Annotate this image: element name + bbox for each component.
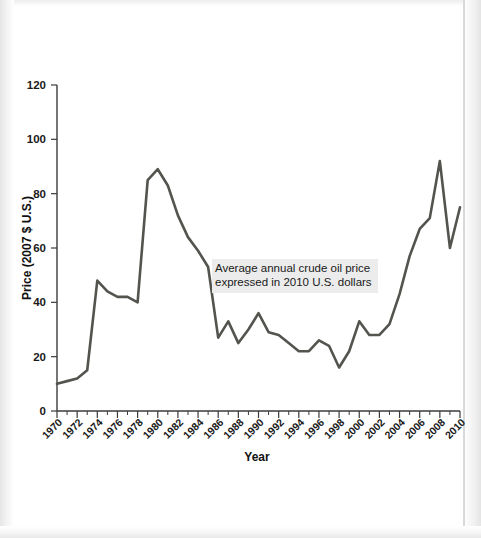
x-tick-label: 1972 [60,416,85,441]
x-tick-label: 1982 [160,416,185,441]
x-tick-label: 1970 [39,416,64,441]
x-tick-label: 1990 [241,416,266,441]
y-tick-label: 120 [27,79,46,91]
x-tick-label: 1994 [281,416,306,441]
y-tick-label: 20 [33,351,46,363]
x-tick-label: 2008 [422,416,447,441]
x-tick-label: 2000 [342,416,367,441]
x-tick-label: 2006 [402,416,427,441]
x-tick-label: 1980 [140,416,165,441]
chart-annotation: Average annual crude oil price expressed… [212,259,378,293]
annotation-line-2: expressed in 2010 U.S. dollars [215,276,372,288]
y-axis-title: Price (2007 $ U.S.) [20,196,34,300]
x-tick-label: 1986 [201,416,226,441]
x-tick-label: 1992 [261,416,286,441]
x-tick-label: 1974 [80,416,105,441]
x-tick-label: 1984 [180,416,205,441]
x-tick-label: 1988 [221,416,246,441]
figure-page: 020406080100120 197019721974197619781980… [0,0,481,538]
x-tick-label: 2004 [382,416,407,441]
y-tick-label: 80 [33,188,46,200]
crude-oil-price-line-chart: 020406080100120 197019721974197619781980… [0,0,481,538]
x-tick-label: 1996 [301,416,326,441]
y-tick-label: 60 [33,242,46,254]
x-tick-label: 2010 [442,416,467,441]
y-tick-label: 40 [33,296,46,308]
x-axis: 1970197219741976197819801982198419861988… [39,411,467,441]
x-axis-ticks: 1970197219741976197819801982198419861988… [39,411,467,441]
x-tick-label: 1978 [120,416,145,441]
x-tick-label: 1976 [100,416,125,441]
y-tick-label: 100 [27,133,46,145]
x-tick-label: 2002 [362,416,387,441]
x-axis-title: Year [244,450,270,464]
annotation-line-1: Average annual crude oil price [215,262,370,274]
x-tick-label: 1998 [322,416,347,441]
y-tick-label: 0 [40,405,46,417]
